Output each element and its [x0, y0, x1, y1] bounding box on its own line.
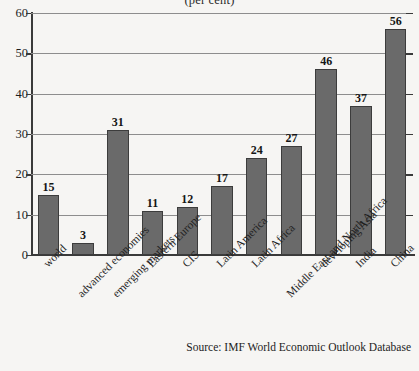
gridline: [31, 13, 413, 14]
y-axis-tick-label: 30: [2, 127, 28, 142]
bar: [315, 69, 337, 255]
y-axis-tick-right: [406, 174, 413, 175]
bar-value-label: 24: [238, 143, 276, 158]
bar-value-label: 31: [99, 115, 137, 130]
y-axis-tick: [26, 174, 31, 175]
bar: [107, 130, 129, 255]
bar-value-label: 11: [134, 196, 172, 211]
chart-title: (per cent): [0, 0, 419, 8]
y-axis-tick: [26, 134, 31, 135]
source-note: Source: IMF World Economic Outlook Datab…: [186, 341, 411, 353]
y-axis-tick: [26, 215, 31, 216]
bar-value-label: 27: [273, 131, 311, 146]
y-axis-tick: [26, 255, 31, 256]
bar-chart-figure: (per cent) 0102030405060 153311112172427…: [0, 0, 419, 371]
bar-value-label: 37: [342, 91, 380, 106]
y-axis-tick-label: 50: [2, 46, 28, 61]
bar-value-label: 12: [169, 192, 207, 207]
y-axis-tick-label: 40: [2, 86, 28, 101]
bar-value-label: 56: [377, 14, 415, 29]
y-axis-tick: [26, 53, 31, 54]
bar: [385, 29, 407, 255]
y-axis-tick-label: 20: [2, 167, 28, 182]
y-axis-tick-right: [406, 215, 413, 216]
bar-value-label: 15: [30, 180, 68, 195]
gridline: [31, 53, 413, 54]
bar-value-label: 3: [64, 228, 102, 243]
bar-value-label: 46: [307, 54, 345, 69]
y-axis-tick: [26, 94, 31, 95]
bar: [72, 243, 94, 255]
y-axis-tick: [26, 13, 31, 14]
y-axis-tick-right: [406, 94, 413, 95]
bar-value-label: 17: [203, 171, 241, 186]
y-axis-tick-label: 10: [2, 207, 28, 222]
y-axis-tick-labels: 0102030405060: [0, 13, 28, 255]
y-axis-tick-label: 60: [2, 6, 28, 21]
y-axis-tick-right: [406, 53, 413, 54]
y-axis-tick-label: 0: [2, 248, 28, 263]
y-axis-tick-right: [406, 134, 413, 135]
